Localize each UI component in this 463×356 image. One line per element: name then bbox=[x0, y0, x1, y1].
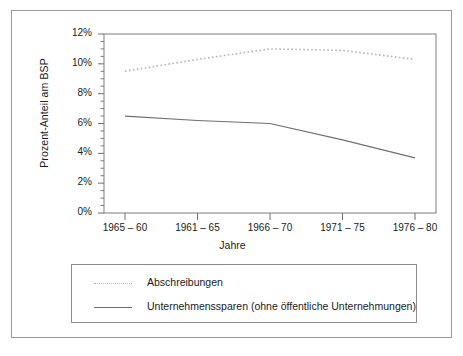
y-axis-title: Prozent-Anteil am BSP bbox=[38, 43, 50, 183]
y-axis-major-ticks bbox=[98, 34, 104, 213]
solid-line-swatch bbox=[94, 307, 132, 310]
series-line bbox=[125, 49, 415, 71]
legend-item-label: Unternehmenssparen (ohne öffentliche Unt… bbox=[147, 300, 416, 312]
dotted-line-swatch bbox=[94, 283, 132, 286]
legend-item-abschreibungen: Abschreibungen bbox=[72, 274, 416, 294]
y-tick-label: 8% bbox=[52, 87, 92, 98]
legend-item-unternehmenssparen: Unternehmenssparen (ohne öffentliche Unt… bbox=[72, 298, 416, 318]
x-tick-label: 1966 – 70 bbox=[230, 222, 310, 233]
figure-frame: Prozent-Anteil am BSP Jahre 0%2%4%6%8%10… bbox=[11, 10, 452, 338]
y-tick-label: 0% bbox=[52, 206, 92, 217]
y-tick-label: 4% bbox=[52, 146, 92, 157]
x-axis-major-ticks bbox=[125, 213, 415, 220]
legend: Abschreibungen Unternehmenssparen (ohne … bbox=[71, 264, 417, 323]
x-axis-title: Jahre bbox=[12, 239, 453, 251]
legend-item-label: Abschreibungen bbox=[147, 276, 223, 288]
y-tick-label: 10% bbox=[52, 57, 92, 68]
x-tick-label: 1961 – 65 bbox=[158, 222, 238, 233]
y-tick-label: 12% bbox=[52, 27, 92, 38]
y-tick-label: 2% bbox=[52, 176, 92, 187]
data-series-layer bbox=[125, 49, 415, 158]
series-line bbox=[125, 116, 415, 158]
x-tick-label: 1971 – 75 bbox=[303, 222, 383, 233]
y-tick-label: 6% bbox=[52, 117, 92, 128]
x-tick-label: 1965 – 60 bbox=[85, 222, 165, 233]
x-tick-label: 1976 – 80 bbox=[375, 222, 455, 233]
